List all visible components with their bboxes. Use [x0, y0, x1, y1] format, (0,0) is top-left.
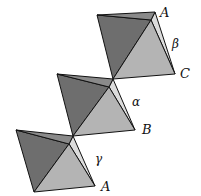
octahedron-top	[97, 12, 175, 79]
angle-label-alpha: α	[132, 95, 140, 109]
angle-label-gamma: γ	[95, 152, 103, 166]
vertex-label-c: C	[180, 66, 190, 81]
octahedra-chain-diagram: A C B A β α γ	[0, 0, 201, 196]
octahedron-middle	[57, 74, 135, 136]
octahedron-bottom	[16, 130, 95, 192]
vertex-label-b: B	[141, 122, 152, 137]
vertex-label-a-bottom: A	[100, 179, 110, 194]
angle-label-beta: β	[171, 37, 179, 51]
vertex-label-a-top: A	[159, 5, 169, 20]
